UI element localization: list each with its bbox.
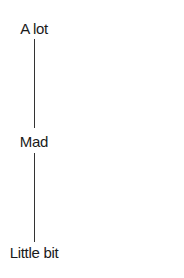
scale-top-label: A lot <box>20 21 48 37</box>
scale-lower-line <box>34 153 35 242</box>
scale-middle-label: Mad <box>20 134 48 150</box>
scale-upper-line <box>34 39 35 128</box>
scale-bottom-label: Little bit <box>10 245 59 261</box>
